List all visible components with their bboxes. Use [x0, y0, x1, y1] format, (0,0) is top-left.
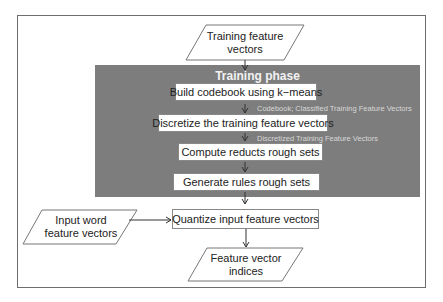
word-input-line-2: feature vectors — [36, 227, 126, 240]
step-build-codebook: Build codebook using k−means — [175, 83, 317, 101]
training-input-line-2: vectors — [200, 43, 290, 56]
annotation-discretized: Discretized Training Feature Vectors — [257, 134, 378, 143]
step-discretize: Discretize the training feature vectors — [158, 114, 328, 132]
output-line-2: indices — [200, 265, 292, 278]
step-quantize: Quantize input feature vectors — [172, 209, 319, 229]
training-input-line-1: Training feature — [200, 30, 290, 43]
output-line-1: Feature vector — [200, 252, 292, 265]
annotation-codebook: Codebook; Classified Training Feature Ve… — [257, 104, 412, 113]
training-input-label: Training feature vectors — [200, 30, 290, 56]
word-input-label: Input word feature vectors — [36, 214, 126, 240]
step-generate-rules: Generate rules rough sets — [173, 173, 320, 191]
step-compute-reducts: Compute reducts rough sets — [178, 143, 323, 161]
output-label: Feature vector indices — [200, 252, 292, 278]
word-input-line-1: Input word — [36, 214, 126, 227]
